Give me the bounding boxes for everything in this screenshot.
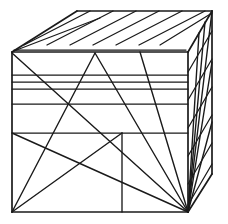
face-fills: [12, 11, 212, 212]
figure-canvas: [0, 0, 228, 224]
cube-line-drawing: [0, 0, 228, 224]
